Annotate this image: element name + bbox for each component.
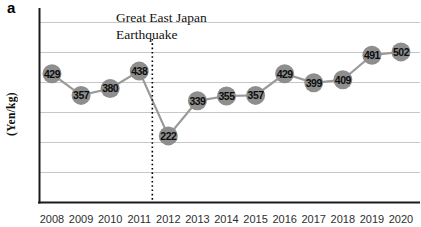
data-point-label: 502 [393,46,410,58]
x-tick-label: 2015 [243,213,267,225]
earthquake-annotation: Great East Japan Earthquake [116,9,207,43]
data-point-label: 357 [73,89,90,101]
chart-svg: 4293573804382223393553574293994094915022… [0,0,421,227]
x-tick-label: 2016 [272,213,296,225]
annotation-line1: Great East Japan [116,9,207,26]
x-tick-label: 2018 [331,213,355,225]
data-point-label: 357 [248,89,265,101]
y-axis-label: (Yen/kg) [5,92,17,136]
x-tick-label: 2013 [185,213,209,225]
x-tick-label: 2010 [98,213,122,225]
data-point-label: 355 [218,90,235,102]
data-point-label: 491 [364,49,381,61]
figure-panel: 4293573804382223393553574293994094915022… [0,0,421,227]
panel-label: a [7,0,15,16]
x-tick-label: 2020 [389,213,413,225]
x-tick-label: 2008 [40,213,64,225]
data-point-label: 339 [189,95,206,107]
data-point-label: 438 [131,65,148,77]
data-point-label: 429 [277,68,294,80]
x-tick-label: 2019 [360,213,384,225]
data-point-label: 429 [44,68,61,80]
x-tick-label: 2014 [214,213,238,225]
x-tick-label: 2012 [156,213,180,225]
x-tick-label: 2011 [127,213,151,225]
annotation-line2: Earthquake [116,26,207,43]
x-tick-label: 2009 [69,213,93,225]
data-point-label: 222 [160,130,177,142]
data-point-label: 409 [335,74,352,86]
data-point-label: 399 [306,77,323,89]
x-tick-label: 2017 [302,213,326,225]
data-point-label: 380 [102,82,119,94]
